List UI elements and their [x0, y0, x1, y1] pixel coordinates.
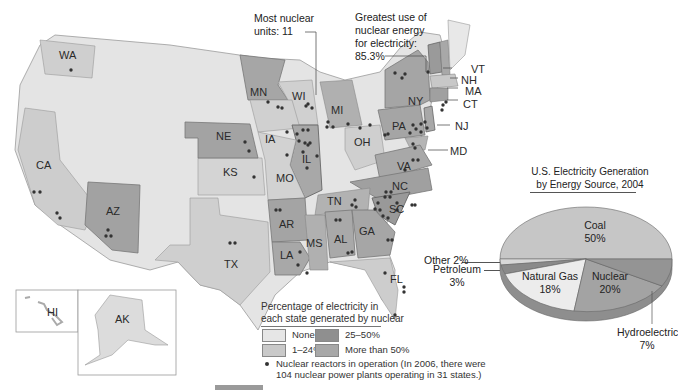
legend-swatch-1-24 [262, 344, 286, 357]
label-al: AL [334, 233, 347, 245]
label-ma: MA [465, 85, 482, 97]
label-hi: HI [47, 306, 58, 318]
legend-swatch-more-50 [315, 344, 339, 357]
state-ct [430, 88, 448, 102]
state-vt [428, 42, 442, 74]
legend-divider [261, 326, 381, 327]
pie-label-nuclear: Nuclear 20% [585, 270, 635, 296]
label-nc: NC [392, 180, 408, 192]
pie-leader-petroleum [484, 270, 500, 271]
label-mi: MI [331, 104, 343, 116]
label-sc: SC [389, 203, 404, 215]
label-ga: GA [359, 225, 375, 237]
label-tn: TN [327, 195, 342, 207]
label-ny: NY [408, 95, 423, 107]
reactor-note: Nuclear reactors in operation (In 2006, … [276, 358, 486, 380]
legend-swatch-none [262, 329, 286, 342]
label-mo: MO [276, 172, 294, 184]
label-wi: WI [292, 90, 305, 102]
pie-label-gas: Natural Gas 18% [518, 270, 582, 296]
pie-title: U.S. Electricity Generation by Energy So… [530, 165, 650, 191]
label-oh: OH [354, 136, 371, 148]
label-pa: PA [392, 120, 406, 132]
label-az: AZ [106, 205, 120, 217]
legend-label-25-50: 25–50% [345, 329, 380, 340]
pie-chart [498, 196, 676, 328]
pie-label-other: Other 2% [424, 254, 468, 267]
label-ct: CT [463, 98, 478, 110]
label-md: MD [450, 145, 467, 157]
pie-label-hydro: Hydroelectric 7% [617, 326, 677, 352]
label-mn: MN [250, 86, 267, 98]
pie-label-coal: Coal 50% [575, 219, 615, 245]
state-nh [440, 40, 450, 75]
label-ia: IA [265, 133, 275, 145]
label-nj: NJ [455, 120, 468, 132]
label-la: LA [280, 249, 293, 261]
label-ks: KS [223, 166, 238, 178]
label-wa: WA [59, 49, 76, 61]
legend-title: Percentage of electricity in each state … [261, 301, 404, 325]
legend-label-more-50: More than 50% [345, 344, 409, 355]
callout-most-units: Most nuclear units: 11 [254, 12, 314, 38]
footer-bar [215, 385, 263, 390]
pie-title-underline [530, 192, 636, 193]
label-ak: AK [115, 313, 130, 325]
state-ma [430, 74, 458, 88]
legend-swatch-25-50 [315, 329, 339, 342]
label-tx: TX [224, 258, 238, 270]
label-il: IL [302, 153, 311, 165]
label-fl: FL [390, 273, 403, 285]
legend-label-none: None [292, 329, 315, 340]
label-ms: MS [306, 237, 323, 249]
label-ne: NE [216, 130, 231, 142]
label-ar: AR [279, 218, 294, 230]
reactor-dot-icon [265, 362, 269, 366]
label-ca: CA [36, 159, 51, 171]
label-va: VA [397, 160, 411, 172]
state-me [448, 20, 470, 70]
callout-greatest-use: Greatest use of nuclear energy for elect… [355, 11, 427, 63]
